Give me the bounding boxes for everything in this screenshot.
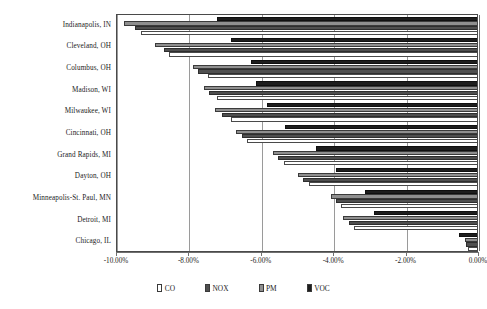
legend-item-co[interactable]: CO [157, 284, 175, 293]
x-axis-line [116, 252, 478, 253]
bar-nox [303, 178, 477, 182]
legend-label: NOX [212, 284, 228, 293]
bar-voc [336, 168, 477, 172]
bar-nox [164, 48, 477, 52]
y-axis-label-dayton-oh: Dayton, OH [75, 172, 111, 180]
chart-legend: CONOXPMVOC [0, 281, 487, 295]
emissions-bar-chart-figure: Indianapolis, INCleveland, OHColumbus, O… [0, 0, 487, 309]
bar-nox [278, 156, 477, 160]
bar-group [117, 145, 477, 167]
bar-pm [465, 238, 477, 242]
voc-swatch-icon [307, 284, 312, 292]
x-tick-mark [116, 252, 117, 256]
bar-group [117, 210, 477, 232]
bar-nox [198, 69, 477, 73]
bar-nox [209, 91, 477, 95]
bar-pm [343, 216, 477, 220]
bar-co [468, 247, 477, 251]
bar-nox [349, 221, 477, 225]
bar-voc [459, 233, 477, 237]
bar-co [141, 31, 477, 35]
bar-co [341, 204, 477, 208]
bar-group [117, 80, 477, 102]
bar-nox [135, 26, 477, 30]
bar-pm [215, 108, 477, 112]
y-axis-label-cleveland-oh: Cleveland, OH [67, 42, 111, 50]
bar-co [231, 117, 477, 121]
y-axis-label-indianapolis-in: Indianapolis, IN [63, 21, 111, 29]
bar-pm [193, 65, 477, 69]
x-axis-tick-label: -4.00% [323, 257, 344, 266]
bar-nox [466, 242, 477, 246]
x-axis-tick-label: -8.00% [178, 257, 199, 266]
bar-pm [155, 43, 477, 47]
bar-group [117, 102, 477, 124]
bar-voc [256, 81, 477, 85]
co-swatch-icon [157, 284, 162, 292]
legend-item-voc[interactable]: VOC [307, 284, 330, 293]
y-axis-label-detroit-mi: Detroit, MI [77, 216, 111, 224]
bar-group [117, 231, 477, 251]
bar-co [169, 52, 477, 56]
x-axis-tick-label: 0.00% [469, 257, 487, 266]
bar-co [208, 74, 478, 78]
bar-voc [231, 38, 477, 42]
bar-group [117, 58, 477, 80]
bar-co [354, 226, 477, 230]
bar-pm [331, 194, 477, 198]
x-axis-tick-label: -10.00% [104, 257, 129, 266]
y-axis-label-grand-rapids-mi: Grand Rapids, MI [57, 151, 111, 159]
y-axis-category-labels: Indianapolis, INCleveland, OHColumbus, O… [0, 14, 114, 252]
bar-nox [336, 199, 477, 203]
bar-group [117, 123, 477, 145]
plot-area [116, 14, 478, 252]
x-tick-mark [406, 252, 407, 256]
x-tick-mark [478, 252, 479, 256]
y-axis-label-cincinnati-oh: Cincinnati, OH [66, 129, 111, 137]
x-tick-mark [261, 252, 262, 256]
bar-group [117, 188, 477, 210]
bar-voc [285, 125, 477, 129]
bar-voc [267, 103, 477, 107]
bar-co [284, 161, 477, 165]
legend-item-pm[interactable]: PM [259, 284, 277, 293]
y-axis-label-milwaukee-wi: Milwaukee, WI [65, 107, 111, 115]
bars-layer [117, 15, 477, 251]
legend-label: CO [165, 284, 175, 293]
y-axis-label-columbus-oh: Columbus, OH [66, 64, 111, 72]
x-axis-tick-label: -6.00% [250, 257, 271, 266]
bar-co [217, 96, 477, 100]
bar-co [247, 139, 477, 143]
bar-pm [273, 151, 477, 155]
bar-voc [316, 146, 477, 150]
bar-nox [222, 113, 477, 117]
bar-group [117, 15, 477, 37]
bar-voc [251, 60, 477, 64]
bar-voc [217, 17, 477, 21]
nox-swatch-icon [205, 284, 210, 292]
bar-group [117, 166, 477, 188]
x-tick-mark [333, 252, 334, 256]
x-axis-tick-label: -2.00% [395, 257, 416, 266]
bar-voc [374, 211, 477, 215]
gridline-000 [479, 15, 480, 251]
bar-pm [298, 173, 477, 177]
legend-label: PM [266, 284, 277, 293]
bar-pm [124, 21, 477, 25]
bar-group [117, 37, 477, 59]
y-axis-label-chicago-il: Chicago, IL [76, 237, 111, 245]
y-axis-label-madison-wi: Madison, WI [72, 86, 111, 94]
pm-swatch-icon [259, 284, 264, 292]
bar-co [309, 182, 477, 186]
legend-item-nox[interactable]: NOX [205, 284, 229, 293]
x-tick-mark [188, 252, 189, 256]
legend-label: VOC [314, 284, 330, 293]
bar-nox [242, 134, 477, 138]
bar-pm [236, 130, 477, 134]
bar-voc [365, 190, 477, 194]
bar-pm [204, 86, 477, 90]
y-axis-label-minneapolis-st-paul-mn: Minneapolis-St. Paul, MN [33, 194, 111, 202]
